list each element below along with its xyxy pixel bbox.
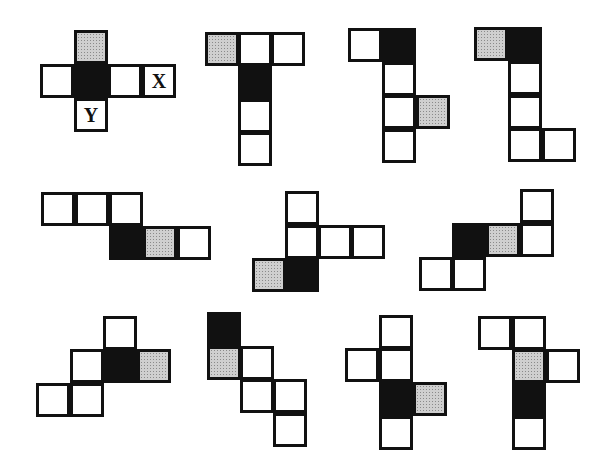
net-square-gray bbox=[416, 95, 450, 129]
net-square-black bbox=[207, 312, 241, 346]
net-square-black bbox=[382, 28, 416, 62]
net-square-white bbox=[508, 95, 542, 129]
net-square-white bbox=[41, 192, 75, 226]
net-square-gray bbox=[137, 349, 171, 383]
net-square-white bbox=[345, 348, 379, 382]
face-label: X bbox=[152, 70, 166, 93]
net-square-white bbox=[238, 32, 272, 66]
net-square-gray bbox=[207, 346, 241, 380]
net-square-white bbox=[379, 416, 413, 450]
net-square-white bbox=[273, 379, 307, 413]
net-square-black bbox=[285, 258, 319, 292]
net-square-black bbox=[512, 382, 546, 416]
net-square-white bbox=[512, 416, 546, 450]
net-square-white bbox=[478, 316, 512, 350]
net-square-white bbox=[351, 225, 385, 259]
net-square-white bbox=[512, 316, 546, 350]
net-square-black bbox=[452, 223, 486, 257]
net-square-white bbox=[285, 225, 319, 259]
net-square-white bbox=[70, 349, 104, 383]
net-square-gray bbox=[474, 27, 508, 61]
net-square-white bbox=[240, 346, 274, 380]
net-square-gray bbox=[512, 349, 546, 383]
net-square-white bbox=[419, 257, 453, 291]
net-square-black bbox=[238, 66, 272, 100]
net-square-black bbox=[103, 349, 137, 383]
net-square-white bbox=[103, 316, 137, 350]
net-square-white bbox=[318, 225, 352, 259]
net-square-gray bbox=[252, 258, 286, 292]
net-square-white bbox=[177, 226, 211, 260]
net-square-white bbox=[508, 128, 542, 162]
net-square-black bbox=[74, 64, 108, 98]
net-square-white bbox=[240, 379, 274, 413]
net-square-white bbox=[273, 413, 307, 447]
net-square-white bbox=[348, 28, 382, 62]
net-square-gray bbox=[205, 32, 239, 66]
net-square-white bbox=[379, 348, 413, 382]
net-square-white bbox=[382, 95, 416, 129]
net-square-white bbox=[542, 128, 576, 162]
net-square-white bbox=[40, 64, 74, 98]
net-square-white: X bbox=[142, 64, 176, 98]
net-square-white bbox=[379, 315, 413, 349]
net-square-gray bbox=[486, 223, 520, 257]
net-square-white bbox=[238, 99, 272, 133]
net-square-white bbox=[382, 129, 416, 163]
net-square-gray bbox=[413, 382, 447, 416]
face-label: Y bbox=[84, 104, 98, 127]
net-square-white bbox=[108, 64, 142, 98]
net-square-white: Y bbox=[74, 98, 108, 132]
net-square-black bbox=[508, 27, 542, 61]
net-square-white bbox=[75, 192, 109, 226]
net-square-white bbox=[285, 191, 319, 225]
net-square-white bbox=[520, 189, 554, 223]
net-square-white bbox=[271, 32, 305, 66]
net-square-gray bbox=[74, 30, 108, 64]
net-square-white bbox=[70, 383, 104, 417]
net-square-gray bbox=[143, 226, 177, 260]
net-square-white bbox=[508, 61, 542, 95]
net-square-white bbox=[452, 257, 486, 291]
net-square-white bbox=[382, 62, 416, 96]
net-square-white bbox=[109, 192, 143, 226]
net-square-white bbox=[546, 349, 580, 383]
net-square-white bbox=[238, 132, 272, 166]
net-square-black bbox=[379, 382, 413, 416]
net-square-black bbox=[109, 226, 143, 260]
net-square-white bbox=[36, 383, 70, 417]
cube-net-diagram: XY bbox=[0, 0, 615, 469]
net-square-white bbox=[520, 223, 554, 257]
